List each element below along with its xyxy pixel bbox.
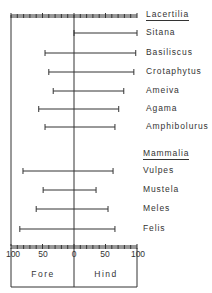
group-header-lacertilia: Lacertilia	[146, 9, 189, 21]
row-label: Mustela	[143, 184, 179, 194]
row-label: Meles	[143, 203, 170, 213]
row-label: Amphibolurus	[146, 121, 209, 131]
tick-label: 0	[72, 249, 77, 259]
tick-label: 100	[131, 249, 145, 259]
row-label: Basiliscus	[146, 47, 193, 57]
row-label: Vulpes	[143, 165, 174, 175]
tick-label: 100	[6, 249, 20, 259]
tick-label: 50	[38, 249, 47, 259]
row-label: Agama	[146, 103, 177, 113]
row-label: Ameiva	[146, 85, 180, 95]
row-label: Felis	[143, 223, 165, 233]
tick-label: 50	[100, 249, 109, 259]
range-chart: Lacertilia Mammalia SitanaBasiliscusCrot…	[0, 0, 212, 293]
row-label: Sitana	[146, 27, 176, 37]
fore-label: Fore	[31, 269, 54, 279]
group-header-mammalia: Mammalia	[143, 148, 189, 160]
row-label: Crotaphytus	[146, 66, 202, 76]
hind-label: Hind	[94, 269, 117, 279]
